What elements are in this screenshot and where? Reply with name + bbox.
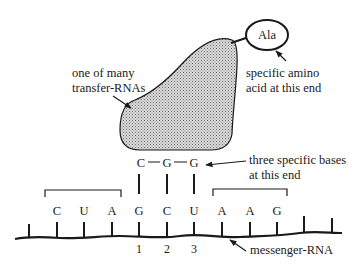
mrna-base: A xyxy=(107,204,116,218)
mrna-base: U xyxy=(189,204,198,218)
mrna-base: U xyxy=(79,204,88,218)
anticodon-base-1: C xyxy=(137,156,145,170)
mrna-backbone xyxy=(15,232,342,239)
trna-label-line1: one of many xyxy=(72,66,135,80)
anticodon-base-3: G xyxy=(189,156,198,170)
anticodon-label-line1: three specific bases xyxy=(249,153,346,167)
mrna-label: messenger-RNA xyxy=(250,243,333,257)
anticodon-arrow xyxy=(206,161,246,165)
anticodon-base-2: G xyxy=(162,156,171,170)
amino-acid-label-line2: acid at this end xyxy=(246,81,322,95)
trna-arrow xyxy=(113,96,131,108)
codon-bracket-right xyxy=(213,189,287,196)
mrna-bases: C U A G C U A A G xyxy=(53,204,282,218)
amino-acid-arrow xyxy=(276,51,286,61)
amino-acid-name: Ala xyxy=(258,28,277,42)
anticodon-label-line2: at this end xyxy=(249,168,301,182)
codon-number-2: 2 xyxy=(164,242,170,256)
anticodon: C G G xyxy=(134,155,201,170)
trna-label-line2: transfer-RNAs xyxy=(72,81,145,95)
mrna-base: A xyxy=(217,204,226,218)
codon-number-1: 1 xyxy=(136,242,142,256)
codon-number-3: 3 xyxy=(191,242,197,256)
mrna-base: G xyxy=(272,204,281,218)
mrna-base: A xyxy=(245,204,254,218)
mrna-base: G xyxy=(134,204,143,218)
mrna-base: C xyxy=(163,204,171,218)
amino-acid-label-line1: specific amino xyxy=(246,66,319,80)
mrna-strand xyxy=(15,216,342,239)
codon-bracket-left xyxy=(45,190,121,197)
base-pair-bonds xyxy=(139,174,194,194)
amino-acid-ala: Ala xyxy=(246,20,288,50)
translation-diagram: Ala specific amino acid at this end one … xyxy=(0,0,362,270)
mrna-arrow xyxy=(230,240,246,251)
mrna-base: C xyxy=(53,204,61,218)
